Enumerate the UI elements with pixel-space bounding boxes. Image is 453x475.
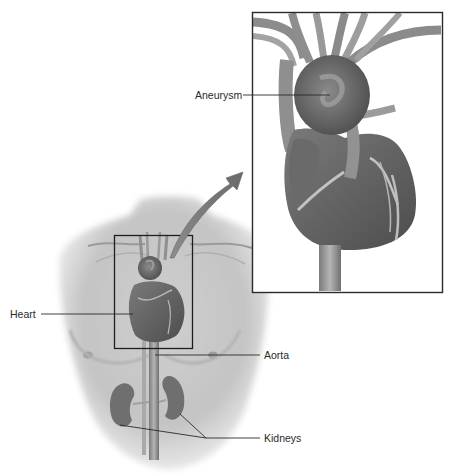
label-aneurysm: Aneurysm [195,89,242,101]
vena-cava-small [142,340,146,455]
label-heart: Heart [10,308,36,320]
aneurysm-small [138,256,162,280]
heart-small [129,281,185,342]
aorta-enlarged [319,245,341,292]
anatomy-diagram: Aneurysm Heart Aorta Kidneys [0,0,453,475]
aorta-small [149,330,159,460]
label-aorta: Aorta [264,349,289,361]
label-kidneys: Kidneys [264,432,301,444]
enlarged-view [252,12,443,293]
